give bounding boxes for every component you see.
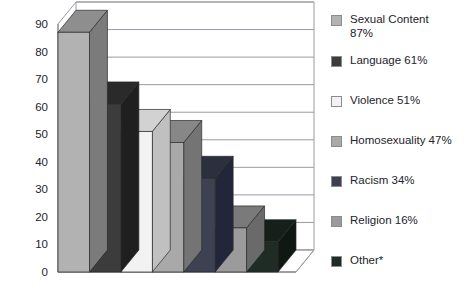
legend-color-swatch — [331, 56, 342, 67]
y-axis-tick-label: 10 — [35, 238, 48, 250]
legend-item[interactable]: Homosexuality 47% — [331, 134, 471, 148]
legend-color-swatch — [331, 176, 342, 187]
legend-color-swatch — [331, 96, 342, 107]
y-axis-tick-label: 0 — [42, 266, 48, 278]
bar — [58, 10, 107, 272]
legend-item-label: Violence 51% — [350, 94, 420, 108]
legend-item-label: Language 61% — [350, 54, 427, 68]
legend-color-swatch — [331, 216, 342, 227]
legend-item[interactable]: Other* — [331, 254, 471, 268]
y-axis-tick-label: 50 — [35, 128, 48, 140]
legend-item-label: Sexual Content 87% — [350, 13, 429, 40]
legend-item[interactable]: Racism 34% — [331, 174, 471, 188]
bar-side-face — [184, 120, 202, 272]
legend-item-label: Religion 16% — [350, 214, 418, 228]
legend-color-swatch — [331, 136, 342, 147]
plot-area: 9080706050403020100 — [0, 0, 330, 291]
y-axis-tick-label: 70 — [35, 73, 48, 85]
y-axis-tick-label: 20 — [35, 211, 48, 223]
y-axis-tick-label: 60 — [35, 101, 48, 113]
y-axis-tick-label: 40 — [35, 156, 48, 168]
bar-side-face — [121, 82, 139, 272]
legend-item[interactable]: Religion 16% — [331, 214, 471, 228]
legend-item[interactable]: Language 61% — [331, 54, 471, 68]
chart-canvas: 9080706050403020100 — [0, 0, 330, 291]
legend-item-label: Other* — [350, 254, 383, 268]
legend-color-swatch — [331, 15, 342, 26]
bar-side-face — [89, 10, 107, 272]
y-axis-ticklabels: 9080706050403020100 — [35, 18, 48, 278]
bar-side-face — [152, 109, 170, 272]
chart-legend: Sexual Content 87%Language 61%Violence 5… — [331, 0, 471, 291]
legend-item-label: Homosexuality 47% — [350, 134, 452, 148]
legend-item-label: Racism 34% — [350, 174, 415, 188]
legend-color-swatch — [331, 256, 342, 267]
y-axis-tick-label: 90 — [35, 18, 48, 30]
bar-front-face — [58, 32, 89, 272]
legend-item[interactable]: Sexual Content 87% — [331, 13, 471, 40]
y-axis-tick-label: 80 — [35, 46, 48, 58]
y-axis-tick-label: 30 — [35, 183, 48, 195]
legend-item[interactable]: Violence 51% — [331, 94, 471, 108]
bar-chart: 9080706050403020100 Sexual Content 87%La… — [0, 0, 471, 291]
